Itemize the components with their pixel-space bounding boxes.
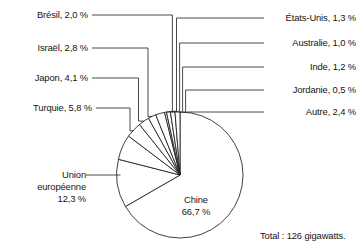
label-union-europeenne-line1: Union bbox=[10, 169, 86, 181]
label-chine-line1: Chine bbox=[165, 194, 227, 206]
pie-chart-figure: Brésil, 2,0 % Israël, 2,8 % Japon, 4,1 %… bbox=[0, 0, 358, 250]
label-israel: Israël, 2,8 % bbox=[0, 42, 88, 54]
label-bresil: Brésil, 2,0 % bbox=[0, 9, 88, 21]
label-jordanie: Jordanie, 0,5 % bbox=[262, 84, 356, 96]
leader-line-australie bbox=[180, 43, 264, 111]
leader-line-turquie bbox=[96, 108, 134, 131]
label-etats-unis: États-Unis, 1,3 % bbox=[262, 12, 356, 24]
label-chine-line2: 66,7 % bbox=[165, 206, 227, 218]
label-japon: Japon, 4,1 % bbox=[0, 72, 88, 84]
leader-line-bresil bbox=[92, 15, 172, 113]
label-inde: Inde, 1,2 % bbox=[262, 61, 356, 73]
label-autre: Autre, 2,4 % bbox=[262, 106, 356, 118]
label-chine: Chine 66,7 % bbox=[165, 194, 227, 218]
leader-line-inde bbox=[183, 67, 264, 111]
leader-line-japon bbox=[92, 78, 144, 121]
label-union-europeenne-line2: européenne bbox=[10, 181, 86, 193]
leader-line-israel bbox=[92, 48, 152, 117]
leader-line-etats-unis bbox=[177, 18, 265, 112]
leader-line-jordanie bbox=[186, 90, 264, 112]
label-turquie: Turquie, 5,8 % bbox=[0, 102, 92, 114]
label-union-europeenne: Union européenne 12,3 % bbox=[10, 169, 86, 206]
label-australie: Australie, 1,0 % bbox=[262, 37, 356, 49]
label-union-europeenne-line3: 12,3 % bbox=[10, 193, 86, 205]
total-footnote: Total : 126 gigawatts. bbox=[260, 230, 358, 242]
